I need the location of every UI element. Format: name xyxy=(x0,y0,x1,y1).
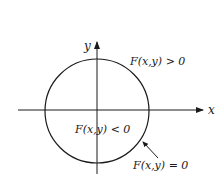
outside-region-label: F(x,y) > 0 xyxy=(129,55,185,68)
y-axis-label: y xyxy=(83,39,91,53)
x-axis-label: x xyxy=(208,103,215,117)
curve-label: F(x,y) = 0 xyxy=(132,159,188,172)
curve-pointer-arrow xyxy=(143,142,158,158)
inside-region-label: F(x,y) < 0 xyxy=(74,123,130,136)
diagram-canvas: y x F(x,y) > 0 F(x,y) < 0 F(x,y) = 0 xyxy=(0,0,224,185)
